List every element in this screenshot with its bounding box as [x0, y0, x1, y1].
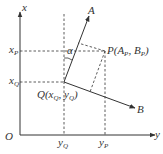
x-axis-label: x — [21, 1, 27, 13]
coordinate-diagram: x y O A B α xP xQ yQ yP P(AP, BP) Q(xQ, … — [0, 0, 163, 154]
tick-yp: yP — [98, 136, 109, 150]
tick-xp: xP — [8, 43, 19, 57]
point-p-label: P(AP, BP) — [106, 44, 149, 58]
vector-b-label: B — [137, 103, 144, 115]
guide-lines — [20, 14, 105, 135]
origin-label: O — [5, 130, 13, 142]
y-axis-label: y — [154, 128, 160, 140]
tick-yq: yQ — [57, 136, 68, 150]
angle-label: α — [67, 44, 73, 56]
tick-xq: xQ — [8, 74, 19, 88]
point-q-label: Q(xQ, yQ) — [37, 88, 78, 102]
vector-a-label: A — [87, 4, 95, 16]
angle-arc — [64, 58, 72, 60]
